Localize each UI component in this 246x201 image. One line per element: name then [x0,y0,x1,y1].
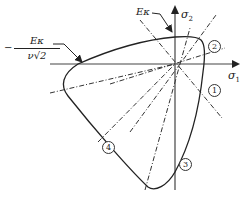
fraction-bar [14,48,60,49]
fraction-denominator: ν√2 [14,50,60,62]
fraction-numerator: Eκ [14,35,60,47]
sigma2-arrow-icon [171,5,179,14]
region-marker-1: 1 [208,84,221,97]
region-marker-3: 3 [179,158,192,171]
sigma1-arrow-icon [232,60,240,68]
left-annotation-fraction: Eκ ν√2 [14,35,60,62]
top-annotation-label: Eκ [136,7,150,17]
region-marker-2: 2 [208,40,221,53]
line-region-1 [140,20,222,118]
region-marker-4: 4 [102,141,115,154]
diagram-svg [0,0,246,201]
line-left-shallow [50,64,175,93]
sigma1-label: σ1 [228,70,240,84]
yield-surface-diagram: σ2 σ1 Eκ − Eκ ν√2 1 2 3 4 [0,0,246,201]
sigma2-label: σ2 [181,9,193,23]
top-annotation-arrow-icon [152,13,172,32]
left-annotation-minus: − [4,42,12,53]
